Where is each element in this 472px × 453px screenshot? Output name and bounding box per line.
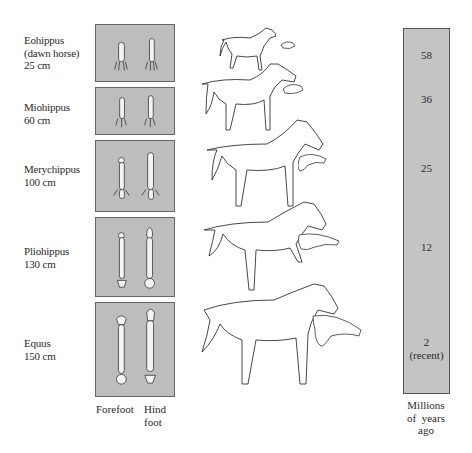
age-note: (recent) — [404, 349, 449, 362]
hindfoot-caption: Hind foot — [144, 403, 166, 428]
skull-equus-icon — [311, 312, 363, 348]
species-name: Miohippus — [24, 101, 70, 114]
species-name: Equus — [24, 337, 56, 350]
foot-bones-icon — [96, 25, 174, 81]
foot-panel-eohippus — [95, 24, 175, 82]
foot-panel-miohippus — [95, 87, 175, 135]
age-equus: 2 (recent) — [404, 336, 449, 361]
caption-line3: ago — [396, 424, 456, 437]
foot-bones-icon — [96, 303, 174, 396]
species-height: 100 cm — [24, 176, 80, 189]
species-height: 60 cm — [24, 114, 70, 127]
skull-merychippus-icon — [298, 151, 328, 173]
species-note: (dawn horse) — [24, 47, 79, 60]
species-name: Eohippus — [24, 34, 79, 47]
time-scale-caption: Millions of years ago — [396, 399, 456, 437]
age-pliohippus: 12 — [404, 241, 449, 254]
species-height: 150 cm — [24, 350, 56, 363]
species-name: Pliohippus — [24, 245, 69, 258]
forefoot-caption: Forefoot — [96, 403, 134, 416]
hindfoot-line2: foot — [144, 416, 166, 429]
skull-eohippus-icon — [280, 40, 296, 50]
species-height: 130 cm — [24, 258, 69, 271]
foot-bones-icon — [96, 218, 174, 296]
age-miohippus: 36 — [404, 93, 449, 106]
age-merychippus: 25 — [404, 162, 449, 175]
age-value: 2 — [404, 336, 449, 349]
species-label-miohippus: Miohippus 60 cm — [24, 101, 70, 126]
skull-pliohippus-icon — [297, 231, 341, 253]
foot-panel-equus — [95, 302, 175, 397]
species-label-merychippus: Merychippus 100 cm — [24, 163, 80, 188]
foot-panel-merychippus — [95, 140, 175, 212]
species-label-eohippus: Eohippus (dawn horse) 25 cm — [24, 34, 79, 72]
caption-line1: Millions — [396, 399, 456, 412]
skull-miohippus-icon — [282, 83, 304, 95]
hindfoot-line1: Hind — [144, 403, 166, 416]
caption-line2: of years — [396, 412, 456, 425]
species-label-pliohippus: Pliohippus 130 cm — [24, 245, 69, 270]
species-name: Merychippus — [24, 163, 80, 176]
age-eohippus: 58 — [404, 49, 449, 62]
foot-panel-pliohippus — [95, 217, 175, 297]
time-scale-bar: 58 36 25 12 2 (recent) — [403, 28, 450, 394]
species-label-equus: Equus 150 cm — [24, 337, 56, 362]
foot-bones-icon — [96, 141, 174, 211]
species-height: 25 cm — [24, 59, 79, 72]
foot-bones-icon — [96, 88, 174, 134]
